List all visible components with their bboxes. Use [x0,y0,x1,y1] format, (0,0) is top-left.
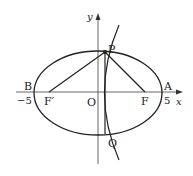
focus-f-label: F [141,95,149,108]
point-q-label: Q [108,137,117,150]
point-a-value: 5 [164,95,170,106]
x-axis-label: x [176,96,182,107]
ellipse-hyperbola-diagram: y x O P Q B −5 A 5 F′ F [0,0,193,176]
point-b-label: B [24,80,32,93]
segment-pf-prime [49,52,105,92]
origin-label: O [87,96,96,109]
y-axis-arrow-icon [96,13,101,20]
point-p-label: P [108,43,116,56]
point-p-dot [103,50,107,54]
focus-f-prime-label: F′ [44,95,55,108]
point-a-label: A [163,80,173,93]
point-b-value: −5 [17,95,32,106]
x-axis [16,90,183,95]
y-axis-label: y [86,11,93,22]
x-axis-arrow-icon [176,90,183,95]
segment-pf [105,52,145,92]
y-axis [96,13,101,164]
